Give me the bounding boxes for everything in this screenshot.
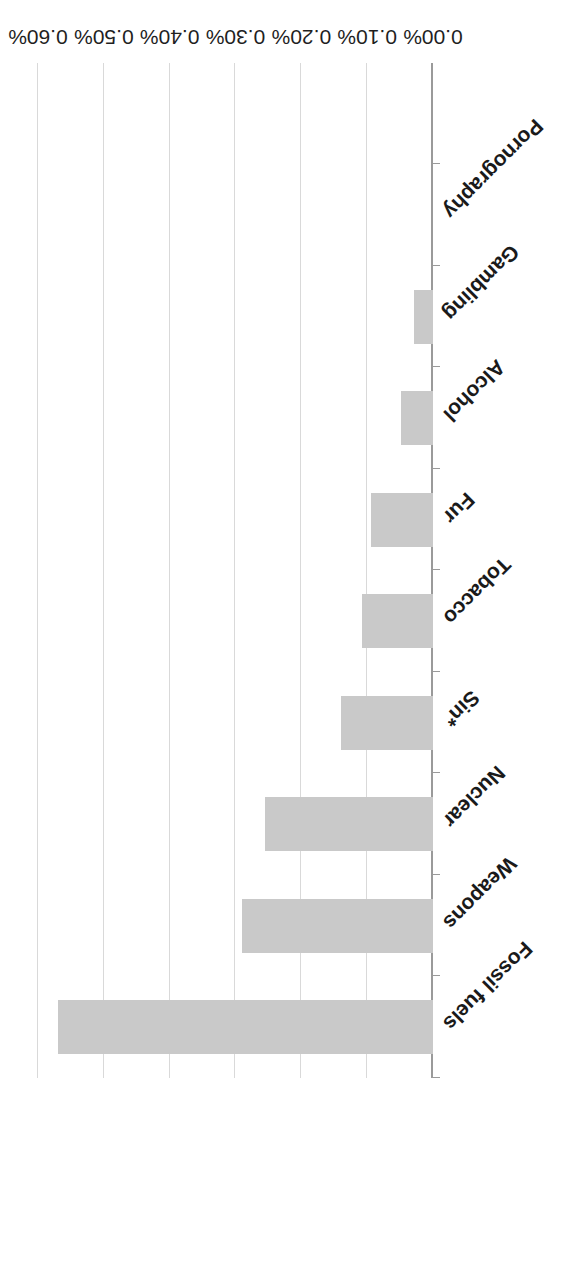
category-label: Fossil fuels	[439, 937, 538, 1036]
bar	[362, 594, 433, 648]
category-label: Gambling	[439, 240, 524, 325]
category-label: Sin*	[439, 685, 485, 731]
category-axis-tick	[433, 366, 440, 367]
category-label: Nuclear	[439, 761, 510, 832]
category-axis-tick	[433, 874, 440, 875]
bar-band	[38, 977, 433, 1079]
bar-band	[38, 469, 433, 571]
bar	[58, 1000, 433, 1054]
bar-band	[38, 571, 433, 673]
bar	[341, 696, 433, 750]
value-axis-tick-label: 0.60%	[0, 25, 83, 49]
bar-band	[38, 774, 433, 876]
category-axis-tick	[433, 975, 440, 976]
category-axis-tick	[433, 1077, 440, 1078]
category-axis-tick	[433, 671, 440, 672]
category-axis-tick	[433, 163, 440, 164]
category-label: Fur	[439, 487, 480, 528]
category-axis-tick	[433, 569, 440, 570]
category-axis-tick	[433, 772, 440, 773]
bar-band	[38, 368, 433, 470]
category-axis-tick	[433, 265, 440, 266]
category-label: Weapons	[439, 852, 522, 935]
category-label: Alcohol	[439, 355, 510, 426]
bar-band	[38, 165, 433, 267]
bar-band	[38, 672, 433, 774]
bar	[265, 797, 433, 851]
bar-band	[38, 875, 433, 977]
bar	[371, 493, 433, 547]
category-label: Pornography	[439, 114, 548, 223]
bar	[242, 899, 433, 953]
bar	[414, 290, 433, 344]
chart-figure: 0.00%0.10%0.20%0.30%0.40%0.50%0.60% Foss…	[0, 0, 570, 1270]
chart-rotated-canvas: 0.00%0.10%0.20%0.30%0.40%0.50%0.60% Foss…	[0, 0, 570, 1270]
plot-area: 0.00%0.10%0.20%0.30%0.40%0.50%0.60% Foss…	[38, 63, 433, 1078]
category-axis-tick	[433, 468, 440, 469]
bar	[401, 391, 433, 445]
category-label: Tobacco	[439, 553, 516, 630]
bar-band	[38, 266, 433, 368]
